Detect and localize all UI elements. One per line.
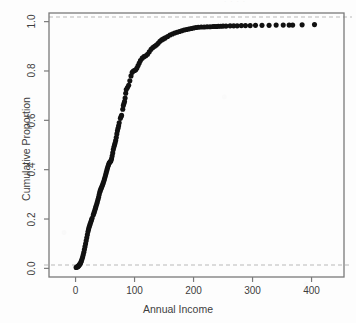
x-tick-label: 400 xyxy=(303,285,320,296)
y-tick-label: 0.0 xyxy=(13,261,39,275)
data-point xyxy=(127,78,132,83)
y-tick-label: 1.0 xyxy=(13,15,39,29)
x-tick-label: 300 xyxy=(244,285,261,296)
data-point xyxy=(253,23,258,28)
data-point xyxy=(123,96,128,101)
data-point xyxy=(243,23,248,28)
x-axis-title: Annual Income xyxy=(0,303,356,315)
data-point xyxy=(274,23,279,28)
x-tick-label: 200 xyxy=(185,285,202,296)
data-point xyxy=(281,23,286,28)
data-point xyxy=(300,22,305,27)
data-point xyxy=(267,23,272,28)
data-point xyxy=(259,23,264,28)
data-point xyxy=(290,23,295,28)
plot-canvas xyxy=(0,0,356,323)
x-axis-ticks xyxy=(76,277,312,282)
x-tick-label: 0 xyxy=(73,285,79,296)
data-point xyxy=(248,23,253,28)
data-point xyxy=(126,83,131,88)
data-point xyxy=(119,113,124,118)
ecdf-figure: · · · · 0100200300400 0.00.20.40.60.81.0… xyxy=(0,0,356,323)
x-tick-label: 100 xyxy=(126,285,143,296)
data-point-series xyxy=(74,22,317,270)
y-axis-ticks xyxy=(44,22,49,269)
y-axis-title: Cumulative Proportion xyxy=(20,69,32,229)
data-point xyxy=(312,22,317,27)
plot-border xyxy=(49,13,344,277)
data-point xyxy=(117,120,122,125)
